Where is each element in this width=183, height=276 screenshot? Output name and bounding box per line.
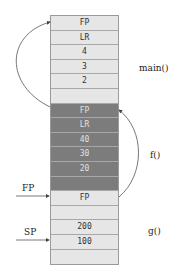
sp-pointer-label: SP <box>24 227 36 237</box>
f-fp-link-arrow <box>119 110 139 197</box>
fp-pointer-label: FP <box>22 183 34 193</box>
frame-label-f: f() <box>150 150 160 160</box>
frame-label-main: main() <box>139 63 169 73</box>
frame-label-g: g() <box>148 226 161 236</box>
main-fp-link-arrow <box>16 22 50 107</box>
